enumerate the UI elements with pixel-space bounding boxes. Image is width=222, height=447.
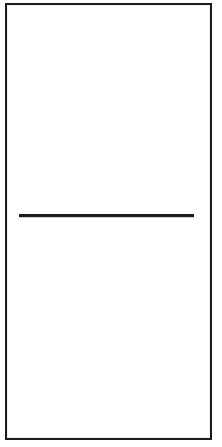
upper-blank-region (7, 5, 210, 214)
lower-blank-region (7, 218, 210, 438)
horizontal-rule-line (19, 214, 194, 217)
figure-canvas (0, 0, 222, 447)
